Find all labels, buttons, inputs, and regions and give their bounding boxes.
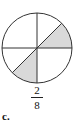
fraction-circle bbox=[0, 0, 74, 90]
fraction-bar bbox=[31, 97, 43, 98]
fraction-denominator: 8 bbox=[30, 100, 44, 111]
fraction-label: 2 8 bbox=[30, 85, 44, 111]
shaded-sector-upper-right bbox=[37, 23, 72, 48]
figure-label: c. bbox=[2, 110, 10, 122]
fraction-numerator: 2 bbox=[30, 85, 44, 96]
shaded-sector-lower-left bbox=[12, 48, 37, 83]
shaded-sectors bbox=[12, 23, 72, 83]
